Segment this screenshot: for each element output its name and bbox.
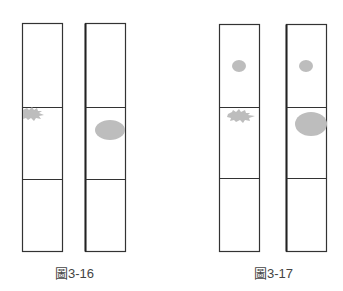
tube-4 <box>287 25 328 252</box>
circle-spot <box>299 60 313 72</box>
ellipse-spot <box>295 112 327 136</box>
caption-number: 3-16 <box>68 266 94 281</box>
figure-3-16 <box>23 24 126 252</box>
caption-fig-3-17: 圖3-17 <box>254 263 293 282</box>
caption-prefix: 圖 <box>254 266 267 281</box>
tube-1 <box>23 24 63 252</box>
ellipse-spot <box>95 120 125 140</box>
caption-prefix: 圖 <box>55 266 68 281</box>
starburst-spot <box>23 107 44 121</box>
caption-number: 3-17 <box>267 266 293 281</box>
circle-spot <box>232 60 246 72</box>
tube-3 <box>220 25 260 252</box>
starburst-spot <box>227 109 255 123</box>
caption-fig-3-16: 圖3-16 <box>55 263 94 282</box>
figure-3-17 <box>220 25 328 252</box>
tube-2 <box>86 24 126 252</box>
chromatography-diagram <box>0 0 343 291</box>
